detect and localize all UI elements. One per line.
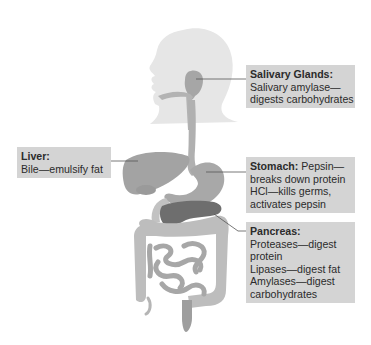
small-intestine-icon	[149, 244, 204, 294]
stomach-label: Stomach: Pepsin— breaks down protein HCl…	[246, 157, 355, 213]
appendix-icon	[146, 298, 150, 314]
pancreas-desc-2: protein	[250, 250, 351, 263]
stomach-title: Stomach:	[250, 160, 298, 172]
stomach-title-suffix: Pepsin—	[298, 160, 344, 172]
liver-title: Liver:	[21, 150, 107, 163]
liver-label: Liver: Bile—emulsify fat	[17, 147, 111, 178]
rectum-icon	[182, 300, 192, 332]
liver-icon	[123, 152, 190, 195]
pancreas-label: Pancreas: Proteases—digest protein Lipas…	[246, 222, 355, 303]
stomach-title-line: Stomach: Pepsin—	[250, 160, 351, 173]
pancreas-desc-3: Lipases—digest fat	[250, 263, 351, 276]
salivary-glands-desc-2: digests carbohydrates	[250, 93, 351, 106]
stomach-desc-3: activates pepsin	[250, 198, 351, 211]
stomach-desc-1: breaks down protein	[250, 173, 351, 186]
liver-desc-1: Bile—emulsify fat	[21, 163, 107, 176]
pancreas-desc-5: carbohydrates	[250, 288, 351, 301]
pancreas-title: Pancreas:	[250, 225, 351, 238]
salivary-glands-title: Salivary Glands:	[250, 68, 351, 81]
gallbladder-icon	[136, 185, 156, 195]
stomach-desc-2: HCl—kills germs,	[250, 185, 351, 198]
salivary-glands-desc-1: Salivary amylase—	[250, 81, 351, 94]
salivary-glands-label: Salivary Glands: Salivary amylase— diges…	[246, 65, 355, 108]
pancreas-desc-4: Amylases—digest	[250, 275, 351, 288]
pancreas-desc-1: Proteases—digest	[250, 238, 351, 251]
